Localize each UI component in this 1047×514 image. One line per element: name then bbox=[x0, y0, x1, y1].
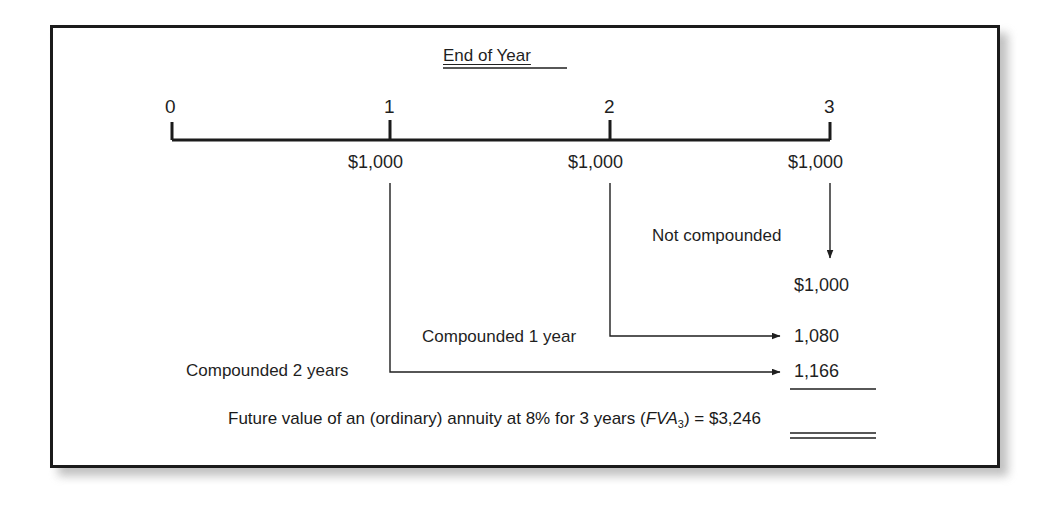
timeline-tick-label-0: 0 bbox=[165, 96, 176, 118]
figure-frame bbox=[50, 25, 1000, 468]
end-of-year-header: End of Year bbox=[443, 46, 531, 66]
figure-root: End of Year 0 1 2 3 $1,000 $1,000 $1,000… bbox=[0, 0, 1047, 514]
total-middle-text: ) = bbox=[684, 409, 709, 428]
cash-flow-label-year-2: $1,000 bbox=[568, 152, 623, 173]
future-value-row-compounded-1-year: 1,080 bbox=[794, 326, 839, 347]
timeline-tick-label-2: 2 bbox=[604, 96, 615, 118]
fva-symbol: FVA bbox=[646, 409, 678, 428]
future-value-row-not-compounded: $1,000 bbox=[794, 275, 849, 296]
timeline-tick-label-3: 3 bbox=[824, 96, 835, 118]
future-value-row-compounded-2-years: 1,166 bbox=[794, 361, 839, 382]
cash-flow-label-year-1: $1,000 bbox=[348, 152, 403, 173]
timeline-tick-label-1: 1 bbox=[384, 96, 395, 118]
total-prefix-text: Future value of an (ordinary) annuity at… bbox=[228, 409, 646, 428]
annotation-compounded-1-year: Compounded 1 year bbox=[422, 327, 576, 347]
total-future-value-amount: $3,246 bbox=[709, 409, 761, 428]
annotation-compounded-2-years: Compounded 2 years bbox=[186, 361, 349, 381]
annotation-not-compounded: Not compounded bbox=[652, 226, 781, 246]
total-future-value-line: Future value of an (ordinary) annuity at… bbox=[228, 409, 761, 430]
cash-flow-label-year-3: $1,000 bbox=[788, 152, 843, 173]
